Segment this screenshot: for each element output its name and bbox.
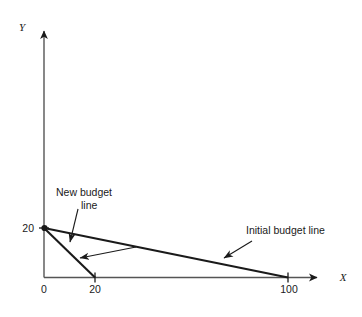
initial-budget-line-label: Initial budget line bbox=[246, 224, 325, 236]
new-budget-line bbox=[44, 228, 95, 278]
y-tick-label-20: 20 bbox=[22, 222, 34, 234]
new-budget-line-label-line1: New budget bbox=[56, 186, 112, 198]
new-budget-line-label-line2: line bbox=[81, 199, 98, 211]
initial-budget-line-leader-arrow bbox=[224, 241, 252, 258]
new-budget-line-leader-arrow-secondary bbox=[80, 247, 136, 258]
x-tick-label-100: 100 bbox=[280, 283, 298, 295]
intercept-point bbox=[41, 225, 47, 231]
x-axis-label: X bbox=[339, 271, 348, 283]
origin-label: 0 bbox=[41, 283, 47, 295]
new-budget-line-leader-arrow bbox=[70, 209, 78, 242]
budget-line-diagram: Y X 20 0 20 100 New budget line Initial … bbox=[0, 0, 362, 317]
y-axis-label: Y bbox=[19, 21, 27, 33]
x-tick-label-20: 20 bbox=[89, 283, 101, 295]
